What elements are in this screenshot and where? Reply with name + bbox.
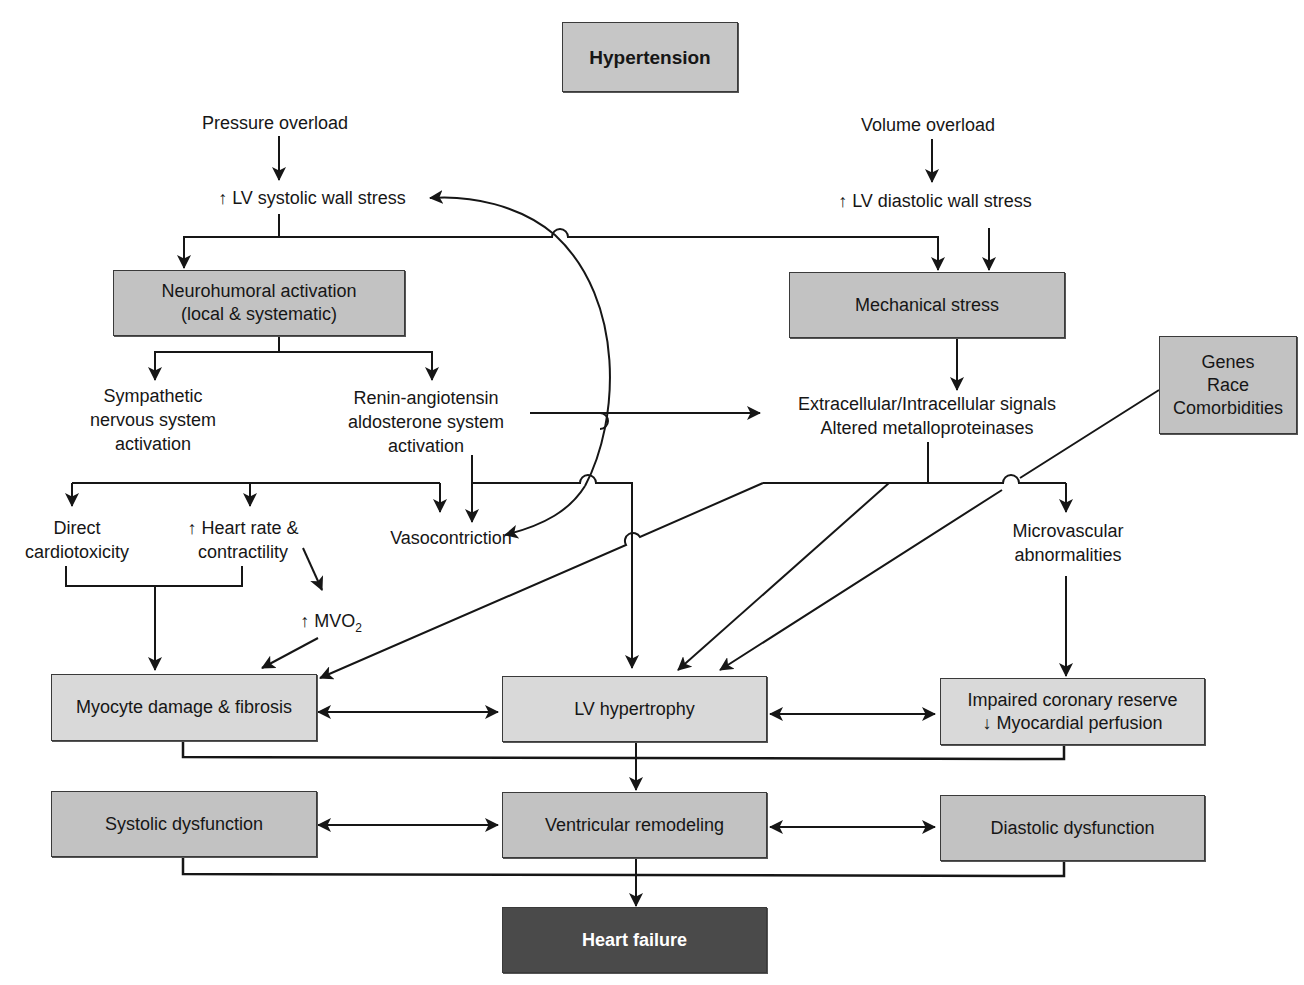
signals-label: Extracellular/Intracellular signals Alte…: [798, 392, 1056, 440]
hypertension-box: Hypertension: [562, 22, 738, 92]
ventricular-remodeling-box: Ventricular remodeling: [502, 792, 767, 858]
vasoconstriction-label: Vasocontriction: [390, 526, 512, 550]
mechanical-stress-box: Mechanical stress: [789, 272, 1065, 338]
lv-systolic-wall-stress-label: ↑ LV systolic wall stress: [218, 186, 406, 210]
arrow-mvo2-to-myocyte: [262, 638, 318, 668]
mechanical-stress-label: Mechanical stress: [855, 294, 999, 317]
arrow-systolic-to-mechanical: [279, 229, 938, 270]
heart-failure-box: Heart failure: [502, 907, 767, 973]
arrow-signals-to-lvh: [678, 483, 889, 670]
mvo2-label: ↑ MVO2: [300, 609, 362, 640]
sympathetic-label: Sympathetic nervous system activation: [90, 384, 216, 456]
neurohumoral-activation-box: Neurohumoral activation (local & systema…: [113, 270, 405, 336]
diastolic-dysfunction-box: Diastolic dysfunction: [940, 795, 1205, 861]
arrow-neuro-to-raas: [279, 352, 432, 380]
systolic-dysfunction-box: Systolic dysfunction: [51, 791, 317, 857]
lv-diastolic-wall-stress-label: ↑ LV diastolic wall stress: [838, 189, 1032, 213]
hypertension-label: Hypertension: [589, 46, 710, 69]
direct-cardiotoxicity-label: Direct cardiotoxicity: [25, 516, 129, 564]
pressure-overload-label: Pressure overload: [202, 111, 348, 135]
genes-race-comorbidities-box: Genes Race Comorbidities: [1159, 336, 1297, 434]
neurohumoral-line1: Neurohumoral activation: [161, 280, 356, 303]
arrow-systolic-to-neurohumoral: [184, 237, 279, 268]
arrow-hr-to-mvo2: [303, 548, 322, 590]
arrow-arc-to-vasoconstriction: [505, 486, 585, 535]
arrow-raas-to-signals: [530, 413, 760, 429]
arrow-neuro-to-sympathetic: [155, 352, 279, 380]
heart-rate-contractility-label: ↑ Heart rate & contractility: [187, 516, 298, 564]
arrow-signals-to-myocyte: [320, 483, 763, 678]
raas-label: Renin-angiotensin aldosterone system act…: [348, 386, 504, 458]
myocyte-damage-box: Myocyte damage & fibrosis: [51, 674, 317, 741]
microvascular-label: Microvascular abnormalities: [1012, 519, 1123, 567]
neurohumoral-line2: (local & systematic): [181, 303, 337, 326]
volume-overload-label: Volume overload: [861, 113, 995, 137]
coronary-reserve-box: Impaired coronary reserve ↓ Myocardial p…: [940, 678, 1205, 745]
arrow-raas-to-lvh: [472, 475, 632, 668]
lv-hypertrophy-box: LV hypertrophy: [502, 676, 767, 742]
